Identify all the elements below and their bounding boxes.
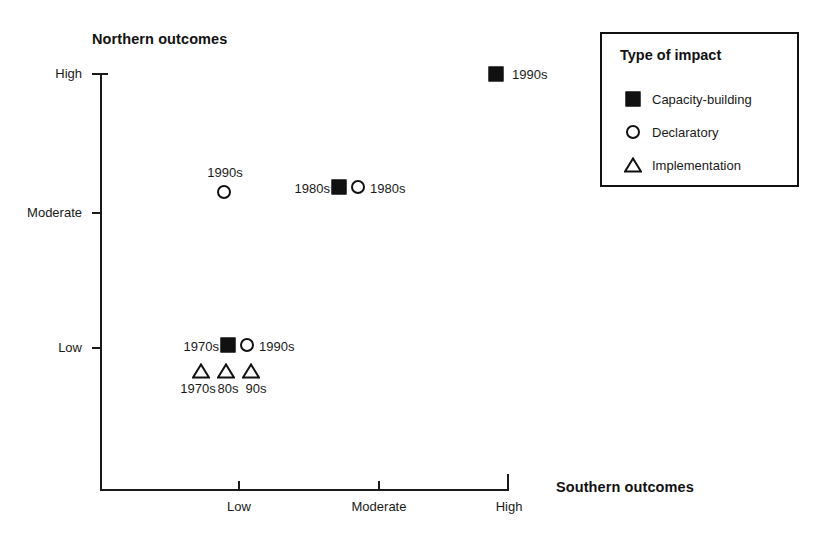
data-label-implementation-1980s: 80s — [218, 381, 239, 396]
data-label-declaratory-1980s: 1980s — [370, 181, 405, 196]
y-tick-low — [92, 347, 101, 349]
data-label-capacity-building-1990s: 1990s — [512, 67, 547, 82]
x-axis-line — [100, 489, 509, 491]
data-label-capacity-building-1970s: 1970s — [184, 339, 219, 354]
y-tick-moderate — [92, 212, 101, 214]
x-tick-label-low: Low — [227, 499, 251, 514]
data-point-capacity-building-1980s[interactable] — [332, 180, 347, 195]
open-circle-icon — [622, 119, 644, 145]
data-point-capacity-building-1990s[interactable] — [489, 67, 504, 82]
x-tick-high — [507, 474, 509, 490]
legend-title: Type of impact — [620, 47, 721, 63]
data-point-declaratory-1980s[interactable] — [351, 180, 365, 194]
y-tick-label-moderate: Moderate — [8, 205, 82, 220]
legend-item-declaratory[interactable]: Declaratory — [602, 119, 797, 145]
x-tick-moderate — [378, 481, 380, 490]
y-tick-label-low: Low — [20, 340, 82, 355]
data-label-implementation-1970s: 1970s — [180, 381, 215, 396]
open-triangle-icon — [622, 152, 644, 178]
legend-label-implementation: Implementation — [652, 158, 741, 173]
x-tick-low — [238, 481, 240, 490]
y-axis-line — [100, 73, 102, 491]
x-tick-label-high: High — [496, 499, 523, 514]
data-point-declaratory-1990s-moderate[interactable] — [217, 185, 231, 199]
legend-label-declaratory: Declaratory — [652, 125, 718, 140]
filled-square-icon — [622, 86, 644, 112]
legend-item-implementation[interactable]: Implementation — [602, 152, 797, 178]
chart-canvas: Northern outcomes Southern outcomes High… — [0, 0, 825, 536]
data-point-capacity-building-1970s[interactable] — [221, 338, 236, 353]
y-axis-title: Northern outcomes — [92, 31, 227, 47]
y-tick-label-high: High — [20, 66, 82, 81]
x-axis-title: Southern outcomes — [556, 479, 694, 495]
legend-item-capacity-building[interactable]: Capacity-building — [602, 86, 797, 112]
data-label-capacity-building-1980s: 1980s — [295, 181, 330, 196]
data-label-implementation-1990s: 90s — [246, 381, 267, 396]
x-tick-label-moderate: Moderate — [352, 499, 407, 514]
y-tick-high — [92, 73, 108, 75]
data-label-declaratory-1990s-low: 1990s — [259, 339, 294, 354]
legend-label-capacity-building: Capacity-building — [652, 92, 752, 107]
data-label-declaratory-1990s-moderate: 1990s — [207, 165, 242, 180]
data-point-declaratory-1990s-low[interactable] — [240, 338, 254, 352]
legend-box: Type of impact Capacity-building Declara… — [600, 32, 799, 187]
